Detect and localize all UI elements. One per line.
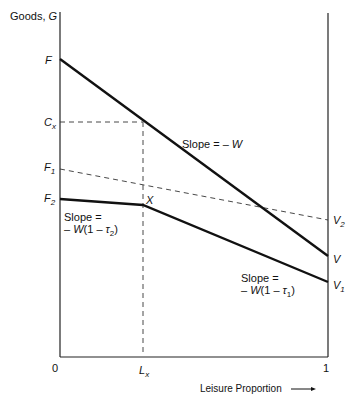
label-v2: V2	[333, 214, 345, 228]
tau1-w: W	[250, 284, 260, 296]
arrow-icon	[311, 387, 316, 391]
x-tick-one: 1	[323, 362, 329, 374]
label-v: V	[333, 253, 340, 265]
annotation-slope-tau1-line2: – W(1 – τ1)	[241, 284, 295, 298]
label-f2-main: F	[44, 192, 51, 204]
label-v1: V1	[333, 279, 345, 293]
x-tick-zero: 0	[52, 362, 58, 374]
annotation-slope-w: Slope = – W	[182, 138, 242, 150]
tau1-close: )	[291, 284, 295, 296]
label-f1: F1	[44, 161, 55, 175]
label-f1-sub: 1	[51, 167, 55, 176]
annotation-slope-tau2-line1: Slope =	[64, 211, 118, 223]
tau2-sub: 2	[110, 229, 114, 238]
tau2-close: )	[114, 223, 118, 235]
label-f2-sub: 2	[51, 198, 55, 207]
y-axis-variable: G	[49, 10, 58, 22]
label-f1-main: F	[44, 161, 51, 173]
tau2-minus: –	[64, 223, 73, 235]
budget-constraint-diagram: Goods, G F Cx F1 F2 X V2 V V1 Slope = – …	[0, 0, 356, 405]
x-tick-lx: Lx	[139, 364, 149, 378]
label-v2-sub: 2	[340, 220, 344, 229]
tau1-paren: (1 –	[261, 284, 283, 296]
annotation-slope-tau1-line1: Slope =	[241, 272, 295, 284]
annotation-slope-tau1: Slope = – W(1 – τ1)	[241, 272, 295, 298]
x-tick-lx-sub: x	[145, 370, 149, 379]
point-x-label: X	[146, 194, 153, 206]
tau1-minus: –	[241, 284, 250, 296]
label-f: F	[45, 54, 52, 66]
annotation-slope-w-var: W	[232, 138, 242, 150]
label-cx: Cx	[44, 116, 56, 130]
annotation-slope-w-text: Slope = –	[182, 138, 232, 150]
annotation-slope-tau2-line2: – W(1 – τ2)	[64, 223, 118, 237]
label-cx-main: C	[44, 116, 52, 128]
tau2-w: W	[73, 223, 83, 235]
label-cx-sub: x	[52, 122, 56, 131]
label-f2: F2	[44, 192, 55, 206]
tau1-sub: 1	[287, 290, 291, 299]
y-axis-label-text: Goods,	[10, 10, 49, 22]
label-v1-sub: 1	[340, 285, 344, 294]
y-axis-label: Goods, G	[10, 10, 57, 22]
tau2-paren: (1 –	[84, 223, 106, 235]
annotation-slope-tau2: Slope = – W(1 – τ2)	[64, 211, 118, 237]
x-axis-label: Leisure Proportion	[200, 383, 282, 395]
